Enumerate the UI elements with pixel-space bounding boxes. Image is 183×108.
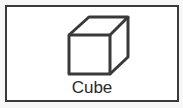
tile-label: Cube: [7, 79, 177, 97]
cube-tile[interactable]: Cube: [5, 5, 179, 102]
